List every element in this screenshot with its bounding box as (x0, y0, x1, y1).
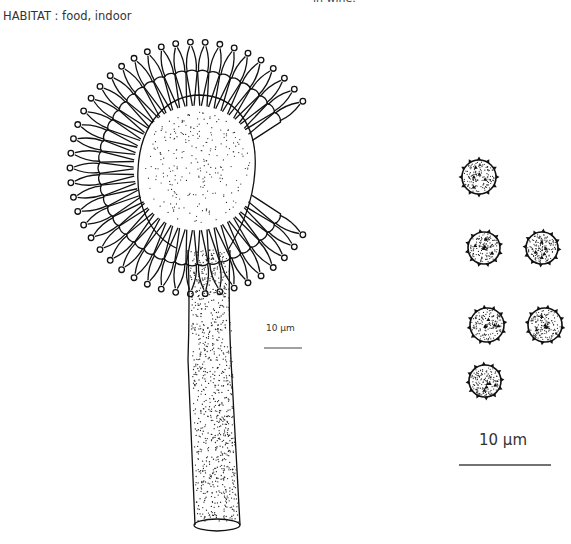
phialide (75, 151, 101, 162)
phialide (77, 186, 104, 198)
phialide (135, 249, 153, 274)
conidium-spore (525, 305, 566, 346)
phialide (112, 78, 134, 101)
phialide-tip (282, 255, 288, 261)
phialide-tip (119, 267, 125, 273)
phialide-tip (173, 41, 179, 47)
phialide (123, 243, 143, 267)
phialide (112, 235, 134, 258)
illustration (0, 0, 571, 544)
phialide-tip (217, 41, 223, 47)
phialide-tip (188, 39, 194, 45)
phialide-tip (97, 247, 103, 253)
phialide-tip (158, 44, 164, 50)
phialide-tip (270, 66, 276, 72)
phialide-tip (231, 45, 237, 51)
phialide-tip (131, 275, 137, 281)
phialide (75, 175, 101, 186)
phialide (174, 47, 185, 74)
phialide (94, 217, 119, 236)
scale-bar-large-label: 10 µm (479, 431, 527, 449)
metula (216, 78, 241, 114)
conidiophore-illustration (67, 39, 305, 531)
metula (186, 70, 200, 106)
phialide (74, 163, 100, 173)
phialide (268, 91, 292, 112)
phialide (242, 63, 260, 88)
phialide-tip (291, 244, 297, 250)
phialide (242, 248, 260, 273)
conidium-spore (523, 229, 562, 268)
phialide (102, 227, 125, 248)
phialide (275, 215, 300, 233)
phialide-tip (291, 86, 297, 92)
metula (235, 208, 268, 241)
phialide-tip (81, 108, 87, 114)
phialide-tip (300, 98, 306, 104)
phialide-tip (258, 57, 264, 63)
phialide-tip (68, 150, 74, 156)
stipple-texture (145, 112, 250, 523)
phialide-tip (282, 75, 288, 81)
phialide (87, 112, 113, 129)
conidium-spore (466, 362, 505, 401)
phialide-tip (119, 63, 125, 69)
phialide-tip (131, 55, 137, 61)
phialide (251, 241, 271, 265)
phialide-tip (107, 257, 113, 263)
phialide-tip (158, 286, 164, 292)
phialide-tip (202, 40, 208, 46)
phialide (174, 262, 185, 289)
phialide (251, 71, 271, 95)
phialide (102, 88, 125, 109)
metula (235, 95, 268, 128)
phialide-tip (245, 280, 251, 286)
phialide-tip (245, 50, 251, 56)
phialide (123, 69, 143, 93)
phialide-tip (71, 195, 77, 201)
phialide (186, 46, 196, 72)
phialide-tip (75, 122, 81, 128)
phialide-tip (68, 180, 74, 186)
phialide (77, 138, 104, 150)
phialide-tip (81, 222, 87, 228)
phialide (198, 46, 208, 72)
phialide-tip (97, 84, 103, 90)
phialide-tip (173, 290, 179, 296)
phialide-tip (67, 165, 73, 171)
phialide (94, 100, 119, 119)
conidium-spore (459, 157, 500, 198)
phialide-tip (145, 49, 151, 55)
stipe-base (194, 519, 240, 531)
phialide-tip (88, 95, 94, 101)
phialide-tip (145, 281, 151, 287)
conidium-spore (465, 229, 503, 267)
phialide-tip (270, 265, 276, 271)
phialide-tip (71, 136, 77, 142)
phialide-tip (88, 235, 94, 241)
phialide (275, 103, 300, 121)
phialide-tip (300, 232, 306, 238)
phialide (260, 233, 282, 255)
phialide (87, 207, 113, 224)
phialide-tip (258, 273, 264, 279)
metula (194, 70, 209, 106)
scale-bar-small-label: 10 µm (266, 323, 295, 333)
conidia-group (459, 157, 566, 401)
conidium-spore (467, 305, 508, 346)
phialide (135, 61, 153, 86)
phialide-tip (75, 209, 81, 215)
phialide (210, 48, 221, 75)
phialide-tip (107, 73, 113, 79)
phialide (260, 80, 282, 102)
metula (216, 222, 241, 258)
phialide (268, 225, 292, 246)
phialide-tip (231, 285, 237, 291)
